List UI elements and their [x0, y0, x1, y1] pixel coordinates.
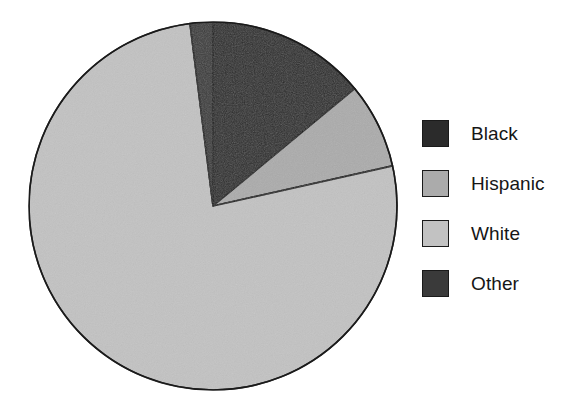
legend-label-hispanic: Hispanic [471, 174, 545, 193]
pie-chart-plot-area [0, 0, 420, 416]
legend: Black Hispanic White Other [422, 108, 572, 308]
legend-label-white: White [471, 224, 520, 243]
legend-swatch-white-icon [422, 220, 449, 247]
pie-chart-figure: Black Hispanic White Other [0, 0, 572, 416]
legend-swatch-other-icon [422, 270, 449, 297]
legend-swatch-hispanic-icon [422, 170, 449, 197]
legend-item-black: Black [422, 108, 572, 158]
legend-swatch-black-icon [422, 120, 449, 147]
legend-item-white: White [422, 208, 572, 258]
legend-label-black: Black [471, 124, 518, 143]
legend-item-other: Other [422, 258, 572, 308]
pie-chart-svg [0, 0, 420, 416]
legend-item-hispanic: Hispanic [422, 158, 572, 208]
legend-label-other: Other [471, 274, 519, 293]
